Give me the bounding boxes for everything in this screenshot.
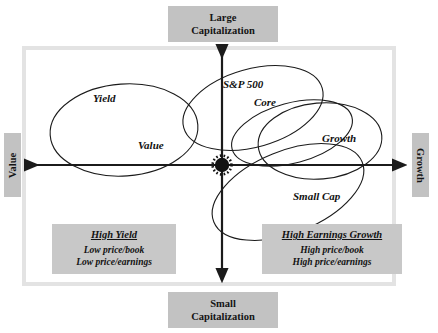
high-yield-line1: Low price/book xyxy=(56,244,172,257)
label-axis-growth: Growth xyxy=(412,133,429,197)
small-cap-line1: Small xyxy=(210,297,236,310)
panel-high-earnings-growth: High Earnings Growth High price/book Hig… xyxy=(262,224,402,274)
label-value: Value xyxy=(138,139,164,151)
high-yield-title: High Yield xyxy=(56,229,172,242)
large-cap-line2: Capitalization xyxy=(191,24,255,37)
label-axis-value: Value xyxy=(4,133,21,197)
axis-value-text: Value xyxy=(7,152,18,177)
label-large-capitalization: Large Capitalization xyxy=(168,6,278,42)
high-earnings-growth-line1: High price/book xyxy=(266,244,398,257)
origin-marker-icon xyxy=(213,156,232,175)
diagram-svg xyxy=(0,0,438,333)
panel-high-yield: High Yield Low price/book Low price/earn… xyxy=(52,224,176,274)
high-earnings-growth-title: High Earnings Growth xyxy=(266,229,398,242)
label-yield: Yield xyxy=(93,92,116,104)
label-core: Core xyxy=(254,96,276,108)
label-growth: Growth xyxy=(322,132,356,144)
high-earnings-growth-line2: High price/earnings xyxy=(266,256,398,269)
large-cap-line1: Large xyxy=(210,11,237,24)
small-cap-line2: Capitalization xyxy=(191,310,255,323)
axis-growth-text: Growth xyxy=(415,148,426,183)
label-sp500: S&P 500 xyxy=(223,78,263,90)
label-small-capitalization: Small Capitalization xyxy=(168,292,278,328)
high-yield-line2: Low price/earnings xyxy=(56,256,172,269)
ellipse-growth xyxy=(255,98,385,185)
diagram-canvas: Large Capitalization Small Capitalizatio… xyxy=(0,0,438,333)
ellipse-sp500 xyxy=(173,51,333,166)
label-small-cap: Small Cap xyxy=(293,190,340,202)
